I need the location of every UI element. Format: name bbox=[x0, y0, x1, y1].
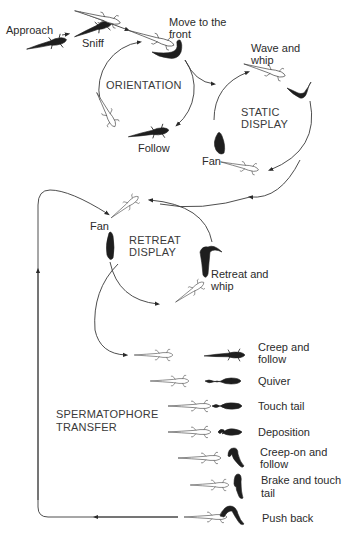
male-creep-icon bbox=[204, 349, 245, 362]
female-touch-tail-icon bbox=[168, 400, 211, 411]
phase-retreat-line2: DISPLAY bbox=[129, 246, 176, 259]
male-approach-icon bbox=[25, 33, 68, 55]
male-fan-static-icon bbox=[214, 132, 224, 154]
label-wave-whip-2: whip bbox=[251, 54, 274, 66]
label-touch-tail: Touch tail bbox=[258, 400, 304, 412]
male-follow-icon bbox=[127, 123, 170, 143]
female-creep-icon bbox=[134, 349, 173, 360]
male-push-back-icon bbox=[220, 506, 244, 525]
male-deposition-icon bbox=[218, 429, 242, 435]
label-brake-touch-1: Brake and touch bbox=[261, 474, 341, 486]
male-wave-icon bbox=[287, 82, 311, 98]
label-retreat-whip-1: Retreat and bbox=[211, 268, 268, 280]
approach-arrow bbox=[62, 34, 68, 35]
female-creep-on-icon bbox=[178, 452, 221, 463]
female-push-back-icon bbox=[184, 511, 227, 522]
retreat-to-transfer-arrow bbox=[95, 264, 126, 355]
female-fan-static-icon bbox=[219, 156, 259, 175]
label-move-to-front-2: front bbox=[169, 28, 191, 40]
label-quiver: Quiver bbox=[258, 375, 290, 387]
static-to-retreat-line bbox=[160, 197, 250, 207]
label-push-back: Push back bbox=[262, 512, 313, 524]
label-creep-follow-2: follow bbox=[258, 353, 286, 365]
female-brake-icon bbox=[190, 479, 229, 490]
male-creep-on-icon bbox=[228, 448, 244, 467]
label-follow: Follow bbox=[138, 142, 170, 154]
label-wave-whip-1: Wave and bbox=[251, 42, 300, 54]
phase-transfer-line1: SPERMATOPHORE bbox=[56, 408, 158, 421]
label-retreat-whip-2: whip bbox=[211, 280, 234, 292]
label-creep-follow-1: Creep and bbox=[258, 341, 309, 353]
orientation-to-static-arrow bbox=[185, 60, 214, 84]
female-retreat-icon bbox=[172, 278, 207, 307]
phase-transfer-line2: TRANSFER bbox=[56, 421, 117, 434]
female-orientation-icon bbox=[91, 90, 120, 130]
phase-orientation: ORIENTATION bbox=[106, 79, 182, 92]
static-to-retreat-arrow bbox=[250, 160, 300, 197]
female-fan-retreat-icon bbox=[108, 192, 142, 222]
label-approach: Approach bbox=[6, 24, 53, 36]
return-to-retreat-arrow bbox=[38, 190, 108, 500]
male-brake-icon bbox=[234, 474, 243, 499]
phase-static-line2: DISPLAY bbox=[241, 118, 288, 131]
label-creep-on-1: Creep-on and bbox=[260, 446, 327, 458]
label-brake-touch-2: tail bbox=[261, 487, 275, 499]
label-sniff: Sniff bbox=[82, 37, 104, 49]
label-deposition: Deposition bbox=[258, 426, 310, 438]
label-fan-retreat: Fan bbox=[90, 220, 109, 232]
female-deposition-icon bbox=[168, 426, 211, 437]
label-fan-static: Fan bbox=[202, 155, 221, 167]
male-fan-retreat-icon bbox=[106, 232, 114, 259]
male-touch-tail-icon bbox=[212, 403, 242, 409]
courtship-diagram: Approach Sniff Move to the front ORIENTA… bbox=[0, 0, 359, 543]
male-quiver-icon bbox=[205, 378, 241, 384]
push-back-return-line bbox=[38, 500, 178, 517]
label-move-to-front-1: Move to the bbox=[169, 16, 226, 28]
female-quiver-icon bbox=[150, 375, 189, 386]
label-creep-on-2: follow bbox=[260, 458, 288, 470]
